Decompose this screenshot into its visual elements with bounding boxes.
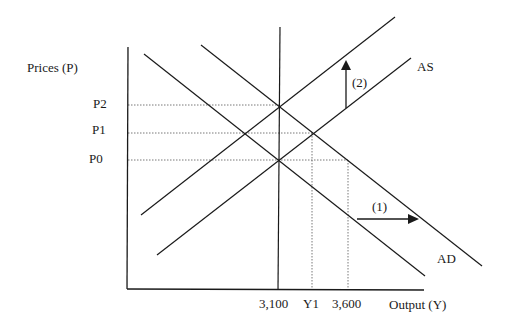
vertical-line-3100 [278,27,280,290]
y-axis-label: Prices (P) [27,60,78,75]
shift-1-label: (1) [372,199,387,214]
y-tick-p0: P0 [89,151,103,166]
as-curve-shifted [141,17,395,215]
as-label: AS [417,59,434,74]
arrow-up-icon [341,60,351,70]
x-tick-3600: 3,600 [332,296,361,311]
x-tick-3100: 3,100 [259,296,288,311]
as-curve-original [157,58,411,255]
y-tick-p2: P2 [93,96,107,111]
ad-label: AD [437,251,456,266]
y-tick-p1: P1 [92,122,106,137]
x-axis [127,289,424,290]
ad-curve-shifted [201,45,482,266]
ad-curve-original [144,54,425,276]
ad-as-diagram: Prices (P) Output (Y) P2 P1 P0 3,100 Y1 … [0,0,505,327]
x-tick-y1: Y1 [303,296,319,311]
y-axis [127,47,128,289]
shift-2-label: (2) [352,75,367,90]
x-axis-label: Output (Y) [389,297,446,312]
